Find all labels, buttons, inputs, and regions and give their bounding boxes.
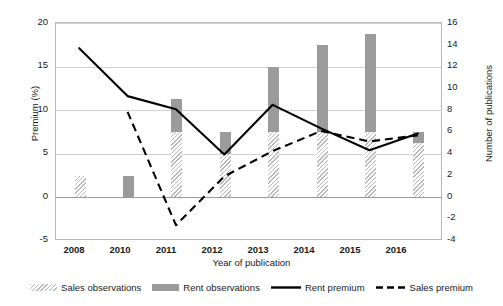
y-tick-primary-0: 0 <box>20 191 48 201</box>
line-series-layer <box>55 22 442 240</box>
y-tick-secondary-10: 10 <box>447 82 469 92</box>
y-tick-primary-5: 5 <box>20 147 48 157</box>
y-tick-secondary-12: 12 <box>447 60 469 70</box>
legend-item-sales-premium: Sales premium <box>376 282 473 293</box>
solid-swatch-icon <box>152 284 179 291</box>
sales-premium-line <box>128 112 418 225</box>
y-tick-secondary-neg2: -2 <box>447 212 469 222</box>
solid-line-icon <box>271 283 301 292</box>
y-tick-primary-15: 15 <box>20 60 48 70</box>
y-tick-primary-20: 20 <box>20 17 48 27</box>
legend-item-sales-observations: Sales observations <box>30 282 141 293</box>
publication-premium-chart: Premium (%) Number of publications Year … <box>0 0 503 306</box>
y-tick-secondary-4: 4 <box>447 147 469 157</box>
legend-label-sales-premium: Sales premium <box>410 282 473 293</box>
y-tick-secondary-6: 6 <box>447 125 469 135</box>
legend-item-rent-observations: Rent observations <box>152 282 260 293</box>
y-tick-secondary-neg4: -4 <box>447 234 469 244</box>
dashed-line-icon <box>376 283 406 292</box>
y-tick-secondary-14: 14 <box>447 39 469 49</box>
y-tick-secondary-8: 8 <box>447 104 469 114</box>
x-tick-2010: 2010 <box>98 244 142 255</box>
y-tick-primary-10: 10 <box>20 104 48 114</box>
chart-legend: Sales observations Rent observations Ren… <box>0 282 503 293</box>
x-tick-2011: 2011 <box>144 244 188 255</box>
x-tick-2012: 2012 <box>190 244 234 255</box>
x-tick-2016: 2016 <box>374 244 418 255</box>
legend-label-sales-observations: Sales observations <box>61 282 141 293</box>
y-tick-secondary-2: 2 <box>447 169 469 179</box>
x-tick-2015: 2015 <box>328 244 372 255</box>
x-axis-title: Year of publication <box>0 257 503 268</box>
y-tick-secondary-16: 16 <box>447 17 469 27</box>
y-tick-primary-neg5: -5 <box>20 234 48 244</box>
legend-label-rent-observations: Rent observations <box>183 282 260 293</box>
hatched-swatch-icon <box>30 284 57 291</box>
y-axis-title-secondary: Number of publications <box>483 44 494 184</box>
x-tick-2008: 2008 <box>52 244 96 255</box>
x-tick-2014: 2014 <box>282 244 326 255</box>
legend-item-rent-premium: Rent premium <box>271 282 365 293</box>
x-tick-2013: 2013 <box>236 244 280 255</box>
y-tick-secondary-0: 0 <box>447 191 469 201</box>
rent-premium-line <box>79 48 418 154</box>
legend-label-rent-premium: Rent premium <box>305 282 365 293</box>
